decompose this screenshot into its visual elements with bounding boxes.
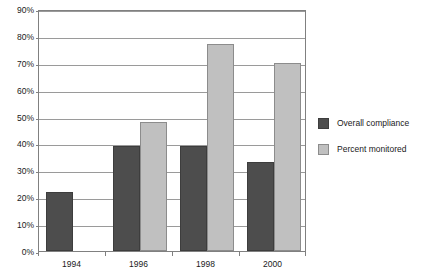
y-axis: 0%10%20%30%40%50%60%70%80%90% <box>0 0 34 279</box>
y-tickmark <box>36 92 39 93</box>
bar-group <box>173 11 240 251</box>
y-tick-label: 10% <box>0 221 34 230</box>
y-tick-label: 40% <box>0 140 34 149</box>
bar-group <box>39 11 106 251</box>
bar <box>274 63 301 251</box>
y-tick-label: 50% <box>0 113 34 122</box>
legend-swatch-icon <box>318 144 329 155</box>
legend-item: Overall compliance <box>318 113 421 133</box>
y-tickmark <box>36 119 39 120</box>
legend-label: Overall compliance <box>337 118 409 128</box>
y-tickmark <box>36 226 39 227</box>
chart-legend: Overall compliancePercent monitored <box>318 113 421 165</box>
legend-label: Percent monitored <box>337 144 406 154</box>
x-tick-label: 1994 <box>38 259 105 269</box>
bar-chart: 0%10%20%30%40%50%60%70%80%90% 1994199619… <box>0 0 423 279</box>
x-tickmark <box>38 252 39 256</box>
x-tickmark <box>105 252 106 256</box>
y-tick-label: 90% <box>0 6 34 15</box>
y-tick-label: 60% <box>0 86 34 95</box>
bar-group <box>106 11 173 251</box>
y-tick-label: 0% <box>0 248 34 257</box>
legend-item: Percent monitored <box>318 139 421 159</box>
y-tick-label: 80% <box>0 32 34 41</box>
x-tick-label: 1998 <box>172 259 239 269</box>
bar-group <box>240 11 307 251</box>
y-tick-label: 70% <box>0 59 34 68</box>
bar <box>113 146 140 251</box>
y-tickmark <box>36 11 39 12</box>
y-tickmark <box>36 199 39 200</box>
x-tick-label: 1996 <box>105 259 172 269</box>
x-tick-label: 2000 <box>239 259 306 269</box>
bar <box>247 162 274 251</box>
y-tickmark <box>36 65 39 66</box>
x-tickmark <box>172 252 173 256</box>
y-tickmark <box>36 145 39 146</box>
bar <box>207 44 234 251</box>
bars-layer <box>39 11 305 251</box>
y-tickmark <box>36 38 39 39</box>
y-tick-label: 30% <box>0 167 34 176</box>
bar <box>46 192 73 251</box>
x-tickmark <box>239 252 240 256</box>
x-axis: 1994199619982000 <box>38 252 306 279</box>
legend-swatch-icon <box>318 118 329 129</box>
x-tickmark <box>305 252 306 256</box>
plot-area <box>38 10 306 252</box>
bar <box>180 146 207 251</box>
y-tickmark <box>36 172 39 173</box>
bar <box>140 122 167 251</box>
y-tick-label: 20% <box>0 194 34 203</box>
